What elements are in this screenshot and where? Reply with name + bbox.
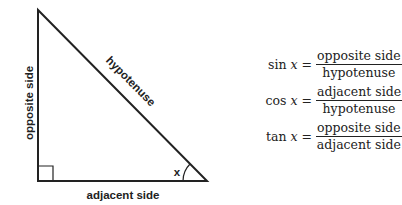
sin-formula: sin x = opposite side hypotenuse xyxy=(262,46,402,82)
numerator: opposite side xyxy=(316,121,402,137)
numerator: opposite side xyxy=(316,49,402,65)
angle-arc xyxy=(183,164,190,181)
function-name: cos xyxy=(266,93,287,108)
numerator: adjacent side xyxy=(316,85,402,101)
variable: x xyxy=(290,129,297,144)
denominator: hypotenuse xyxy=(323,101,396,116)
right-angle-marker xyxy=(38,166,53,181)
fraction: adjacent side hypotenuse xyxy=(316,85,402,116)
function-name: tan xyxy=(266,129,287,144)
angle-label: x xyxy=(174,166,181,178)
denominator: hypotenuse xyxy=(322,65,395,80)
variable: x xyxy=(290,93,297,108)
adjacent-side-label: adjacent side xyxy=(87,189,160,201)
tan-formula: tan x = opposite side adjacent side xyxy=(262,118,402,154)
fraction: opposite side adjacent side xyxy=(316,121,402,152)
fraction: opposite side hypotenuse xyxy=(316,49,402,80)
hypotenuse-label: hypotenuse xyxy=(104,54,158,108)
equals-sign: = xyxy=(302,93,312,108)
denominator: adjacent side xyxy=(317,137,401,152)
triangle xyxy=(38,10,207,181)
opposite-side-label: opposite side xyxy=(23,66,35,140)
equals-sign: = xyxy=(302,57,312,72)
cos-formula: cos x = adjacent side hypotenuse xyxy=(262,82,402,118)
trig-formulas: sin x = opposite side hypotenuse cos x =… xyxy=(262,46,402,154)
variable: x xyxy=(290,57,297,72)
function-name: sin xyxy=(268,57,286,72)
equals-sign: = xyxy=(302,129,312,144)
